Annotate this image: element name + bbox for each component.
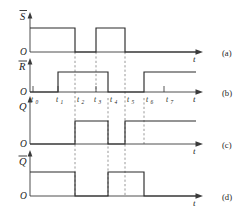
guide-lines-group	[75, 52, 144, 196]
row-d-x-axis-arrow	[196, 193, 204, 198]
row-c-waveform	[30, 121, 196, 144]
time-label-t5-sub: 5	[131, 99, 134, 105]
row-c-signal-label: Q	[19, 101, 27, 112]
row-b-waveform	[30, 72, 196, 92]
time-label-t3-text: t	[94, 95, 97, 104]
time-label-t0-sub: 0	[35, 99, 38, 105]
row-d-waveform	[30, 172, 196, 196]
row-a-signal-label: S	[20, 11, 26, 22]
time-label-t4-text: t	[110, 95, 113, 104]
row-d-signal-label: Q	[19, 156, 27, 167]
row-d-tag: (d)	[222, 192, 232, 202]
row-c-axis-label: t	[193, 146, 196, 156]
time-label-t1-sub: 1	[60, 99, 63, 105]
row-b-x-axis-arrow	[196, 89, 204, 94]
time-label-t7-text: t	[166, 95, 169, 104]
time-label-t1: t 1	[56, 95, 63, 105]
row-a-waveform	[30, 28, 196, 52]
time-label-t5-text: t	[127, 95, 130, 104]
row-a-tag: (a)	[222, 48, 232, 58]
time-label-t6-sub: 6	[150, 99, 153, 105]
time-axis-group: t 0 t 1 t 2 t 3 t 4 t 5	[31, 86, 173, 105]
row-a-x-axis-arrow	[196, 49, 204, 54]
time-label-t4-sub: 4	[114, 99, 117, 105]
time-label-t2-sub: 2	[81, 99, 84, 105]
timing-diagram-figure: S O t (a) R O t (b)	[0, 0, 248, 210]
row-b-origin-label: O	[20, 87, 27, 97]
timing-diagram-canvas: S O t (a) R O t (b)	[0, 0, 248, 210]
row-b-y-axis-arrow	[28, 58, 33, 65]
time-label-t7-sub: 7	[170, 99, 173, 105]
row-d-axis-label: t	[193, 198, 196, 208]
row-b-axis-label: t	[193, 94, 196, 104]
row-a-group: S O t (a)	[20, 11, 232, 65]
time-label-t2-text: t	[77, 95, 80, 104]
row-b-tag: (b)	[222, 88, 232, 98]
row-b-signal-label: R	[18, 61, 26, 72]
time-label-t5: t 5	[127, 95, 134, 105]
row-d-y-axis-arrow	[28, 150, 33, 157]
row-a-axis-label: t	[193, 54, 196, 64]
time-label-t3: t 3	[94, 95, 101, 105]
time-label-t0-text: t	[31, 95, 34, 104]
time-label-t6: t 6	[146, 95, 153, 105]
row-c-x-axis-arrow	[196, 141, 204, 146]
time-label-t0: t 0	[31, 95, 38, 105]
row-c-tag: (c)	[222, 140, 232, 150]
time-label-t6-text: t	[146, 95, 149, 104]
row-a-y-axis-arrow	[28, 12, 33, 19]
time-label-t1-text: t	[56, 95, 59, 104]
time-label-t4: t 4	[110, 95, 117, 105]
time-label-t3-sub: 3	[97, 99, 101, 105]
time-label-t2: t 2	[77, 95, 84, 105]
row-c-origin-label: O	[20, 139, 27, 149]
row-d-origin-label: O	[20, 191, 27, 201]
time-label-t7: t 7	[166, 95, 173, 105]
row-a-origin-label: O	[20, 47, 27, 57]
